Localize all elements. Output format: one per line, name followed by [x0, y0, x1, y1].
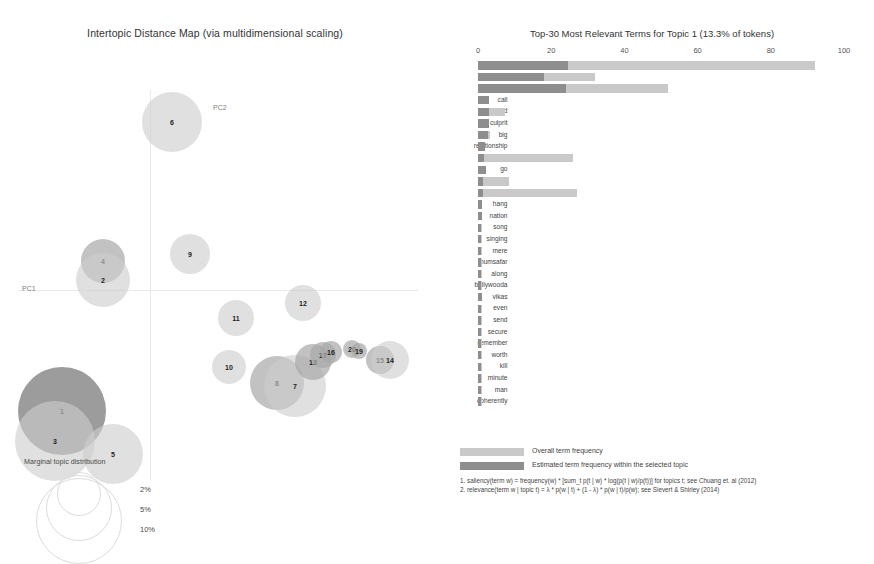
term-label[interactable]: hang [493, 200, 508, 207]
topic-circle-12[interactable]: 12 [285, 285, 321, 321]
bar-row[interactable]: minute [430, 373, 874, 385]
topic-circle-16[interactable]: 16 [320, 341, 342, 363]
size-ring-10pct [36, 478, 122, 564]
term-label[interactable]: big [499, 131, 508, 138]
bar-row[interactable]: kill [430, 361, 874, 373]
bar-row[interactable]: remember [430, 338, 874, 350]
term-label[interactable]: worth [491, 351, 507, 358]
intertopic-distance-map-panel: Intertopic Distance Map (via multidimens… [0, 0, 430, 532]
bar-row[interactable]: rajput [430, 83, 874, 95]
bar-row[interactable]: man [430, 385, 874, 397]
topic-circle-9[interactable]: 9 [170, 234, 210, 274]
barchart-title: Top-30 Most Relevant Terms for Topic 1 (… [430, 28, 874, 39]
bar-estimated-frequency [478, 351, 481, 359]
bar-row[interactable]: go [430, 164, 874, 176]
footnotes: 1. saliency(term w) = frequency(w) * [su… [460, 476, 874, 494]
barchart-plot-area: 020406080100 sushantsinghrajputcallhandc… [430, 46, 874, 446]
bar-estimated-frequency [478, 61, 568, 69]
term-label[interactable]: man [495, 386, 508, 393]
x-tick-100: 100 [838, 46, 851, 55]
topic-circle-14[interactable]: 14 [371, 341, 409, 379]
term-label[interactable]: humsafar [480, 258, 508, 265]
bar-row[interactable]: mere [430, 246, 874, 258]
topic-number-label: 11 [232, 314, 239, 321]
term-label[interactable]: secure [488, 328, 508, 335]
term-label[interactable]: send [493, 316, 507, 323]
bar-estimated-frequency [478, 397, 481, 405]
topic-number-label: 7 [293, 382, 297, 389]
bar-row[interactable]: hang [430, 199, 874, 211]
bar-estimated-frequency [478, 224, 481, 232]
pc2-axis-label: PC2 [213, 104, 227, 111]
bar-estimated-frequency [478, 270, 481, 278]
topic-number-label: 10 [225, 363, 233, 370]
term-label[interactable]: go [500, 165, 507, 172]
term-label[interactable]: call [498, 96, 508, 103]
bar-estimated-frequency [478, 119, 489, 127]
bar-row[interactable]: death [430, 188, 874, 200]
bar-row[interactable]: murder [430, 176, 874, 188]
bar-estimated-frequency [478, 166, 486, 174]
bar-row[interactable]: culprit [430, 118, 874, 130]
pc2-axis-line [150, 90, 151, 480]
intertopic-map-canvas[interactable]: PC2 PC1 64291112108713171620191514135 Ma… [0, 42, 430, 462]
bar-estimated-frequency [478, 142, 485, 150]
topic-circle-11[interactable]: 11 [218, 300, 254, 336]
bar-estimated-frequency [478, 200, 482, 208]
term-label[interactable]: even [493, 304, 507, 311]
bar-row[interactable]: singing [430, 234, 874, 246]
bar-row[interactable]: coherently [430, 396, 874, 408]
bar-estimated-frequency [478, 154, 484, 162]
term-label[interactable]: vikas [492, 293, 507, 300]
term-label[interactable]: mere [492, 247, 507, 254]
bar-overall-frequency [478, 154, 573, 162]
term-label[interactable]: singing [487, 235, 508, 242]
topic-number-label: 9 [188, 250, 192, 257]
bar-row[interactable]: send [430, 315, 874, 327]
topic-circle-19[interactable]: 19 [351, 343, 367, 359]
bar-row[interactable]: big [430, 130, 874, 142]
topic-circle-10[interactable]: 10 [212, 350, 246, 384]
bar-row[interactable]: secure [430, 327, 874, 339]
term-label[interactable]: song [493, 223, 507, 230]
bar-overall-frequency [478, 189, 577, 197]
bar-estimated-frequency [478, 96, 489, 104]
bar-row[interactable]: worth [430, 350, 874, 362]
bar-estimated-frequency [478, 386, 481, 394]
bar-estimated-frequency [478, 212, 482, 220]
term-label[interactable]: along [491, 270, 507, 277]
bar-estimated-frequency [478, 339, 481, 347]
topic-circle-2[interactable]: 2 [76, 253, 130, 307]
term-label[interactable]: remember [477, 339, 507, 346]
footnote-relevance: 2. relevance(term w | topic t) = λ * p(w… [460, 485, 874, 494]
topic-circle-5[interactable]: 5 [83, 424, 143, 484]
x-tick-40: 40 [620, 46, 628, 55]
topic-circle-6[interactable]: 6 [142, 92, 202, 152]
term-label[interactable]: kill [500, 362, 508, 369]
marginal-topic-distribution-label: Marginal topic distribution [24, 457, 106, 466]
bar-row[interactable]: sushant [430, 60, 874, 72]
bar-row[interactable]: even [430, 303, 874, 315]
bar-row[interactable]: hand [430, 106, 874, 118]
x-tick-0: 0 [476, 46, 480, 55]
topic-number-label: 6 [170, 118, 174, 125]
topic-circle-3[interactable]: 3 [15, 401, 95, 481]
bar-row[interactable]: vikas [430, 292, 874, 304]
bar-row[interactable]: singh [430, 72, 874, 84]
bar-row[interactable]: bihar [430, 153, 874, 165]
bar-row[interactable]: song [430, 222, 874, 234]
topic-number-label: 3 [53, 437, 57, 444]
term-label[interactable]: nation [490, 212, 508, 219]
size-legend-10pct: 10% [140, 525, 155, 534]
bar-row[interactable]: bollywooda [430, 280, 874, 292]
bar-estimated-frequency [478, 235, 481, 243]
term-label[interactable]: minute [488, 374, 508, 381]
bar-row[interactable]: call [430, 95, 874, 107]
bar-row[interactable]: relationship [430, 141, 874, 153]
bar-row[interactable]: humsafar [430, 257, 874, 269]
legend-label-overall: Overall term frequency [532, 447, 603, 454]
bar-row[interactable]: nation [430, 211, 874, 223]
term-label[interactable]: culprit [490, 119, 508, 126]
barchart-legend: Overall term frequency Estimated term fr… [460, 447, 874, 475]
bar-row[interactable]: along [430, 269, 874, 281]
